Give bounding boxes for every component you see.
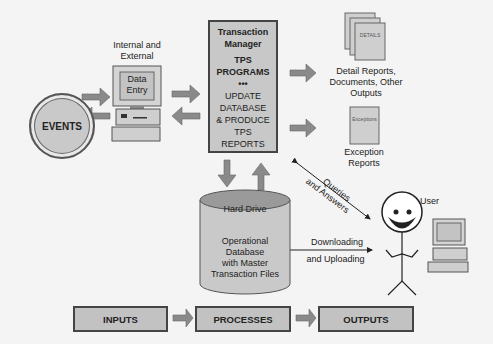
exception-caption-line: Reports xyxy=(334,158,394,169)
exception-caption: Exception Reports xyxy=(334,147,394,169)
database-line: Transaction Files xyxy=(200,269,290,280)
entry-caption-line: Internal and xyxy=(106,40,168,51)
tm-task: TPS xyxy=(210,126,276,138)
events-node: EVENTS xyxy=(29,93,95,159)
events-label: EVENTS xyxy=(42,121,82,132)
tm-separator: ••• xyxy=(210,78,276,90)
user-label: User xyxy=(420,196,439,207)
tm-title: Transaction xyxy=(210,26,276,38)
transaction-manager-box: Transaction Manager TPS PROGRAMS ••• UPD… xyxy=(208,20,278,153)
data-entry-line: Data xyxy=(120,74,154,85)
tm-title: Manager xyxy=(210,38,276,50)
database-line: with Master xyxy=(200,258,290,269)
tm-task: UPDATE xyxy=(210,90,276,102)
entry-caption-line: External xyxy=(106,51,168,62)
tm-programs: PROGRAMS xyxy=(210,66,276,78)
download-label-bottom: and Uploading xyxy=(298,254,373,264)
flow-inputs: INPUTS xyxy=(73,306,168,332)
details-doc-label: DETAILS xyxy=(355,27,385,38)
download-label-top: Downloading xyxy=(302,237,372,247)
hard-drive-label: Hard Drive xyxy=(200,204,290,215)
exception-caption-line: Exception xyxy=(334,147,394,158)
tm-programs: TPS xyxy=(210,54,276,66)
tm-task: DATABASE xyxy=(210,102,276,114)
tm-task: & PRODUCE xyxy=(210,114,276,126)
data-entry-screen: Data Entry xyxy=(120,74,154,96)
flow-processes: PROCESSES xyxy=(195,306,291,332)
database-label: Operational Database with Master Transac… xyxy=(200,236,290,280)
database-line: Operational xyxy=(200,236,290,247)
detail-caption-line: Documents, Other xyxy=(326,77,406,88)
detail-caption: Detail Reports, Documents, Other Outputs xyxy=(326,66,406,99)
tm-task: REPORTS xyxy=(210,138,276,150)
exceptions-doc-label: Exceptions xyxy=(350,111,379,122)
flow-outputs: OUTPUTS xyxy=(318,306,414,332)
database-line: Database xyxy=(200,247,290,258)
entry-caption: Internal and External xyxy=(106,40,168,62)
detail-caption-line: Detail Reports, xyxy=(326,66,406,77)
detail-caption-line: Outputs xyxy=(326,88,406,99)
data-entry-line: Entry xyxy=(120,85,154,96)
